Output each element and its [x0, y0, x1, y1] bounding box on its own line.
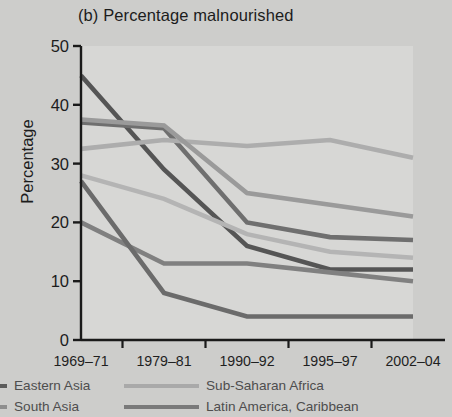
y-tick-label-2: 20 [51, 213, 69, 231]
x-tick-label-2: 1990–92 [219, 353, 274, 369]
legend-swatch-icon [124, 384, 199, 388]
y-tick-label-3: 30 [51, 155, 69, 173]
legend-label: Eastern Asia [14, 378, 90, 393]
plot-area: 010203040501969–711979–811990–921995–972… [0, 0, 452, 417]
plot-svg: 010203040501969–711979–811990–921995–972… [0, 0, 452, 417]
legend-label: Latin America, Caribbean [206, 399, 359, 414]
legend-label: South Asia [14, 399, 79, 414]
y-tick-label-1: 10 [51, 272, 69, 290]
y-tick-label-4: 40 [51, 96, 69, 114]
legend-item: Latin America, Caribbean [124, 397, 359, 416]
x-tick-label-1: 1979–81 [136, 353, 191, 369]
x-tick-label-3: 1995–97 [302, 353, 357, 369]
chart-figure: (b) Percentage malnourished Percentage 0… [0, 0, 452, 417]
legend-item: Eastern Asia [0, 376, 90, 395]
chart-legend: Eastern AsiaSouth AsiaSub-Saharan Africa… [0, 375, 452, 417]
legend-swatch-icon [0, 384, 7, 388]
y-tick-label-0: 0 [60, 331, 69, 349]
y-tick-label-5: 50 [51, 37, 69, 55]
legend-swatch-icon [124, 405, 199, 409]
legend-item: South Asia [0, 397, 79, 416]
legend-item: Sub-Saharan Africa [124, 376, 324, 395]
x-tick-label-4: 2002–04 [385, 353, 440, 369]
x-tick-label-0: 1969–71 [53, 353, 108, 369]
legend-label: Sub-Saharan Africa [206, 378, 324, 393]
legend-swatch-icon [0, 405, 7, 409]
